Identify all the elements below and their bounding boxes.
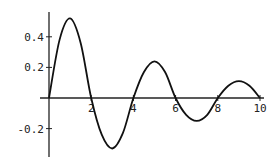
y-tick-label: -0.2 <box>18 123 45 136</box>
axis-ticks <box>46 37 260 129</box>
x-tick-label: 10 <box>253 102 266 115</box>
data-line <box>49 18 260 148</box>
y-tick-label: 0.2 <box>24 61 44 74</box>
tick-labels: 2468100.40.2-0.2 <box>18 31 267 136</box>
x-tick-label: 8 <box>214 102 221 115</box>
chart: 2468100.40.2-0.2 <box>0 0 280 163</box>
y-tick-label: 0.4 <box>24 31 44 44</box>
